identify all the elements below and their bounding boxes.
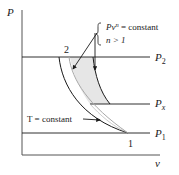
pv-diagram: P v P2 Px P1 2 1 Pvn = constant n > 1 T … <box>0 0 179 175</box>
p2-label: P2 <box>154 51 166 66</box>
isothermal-label: T = constant <box>27 114 72 124</box>
polytropic-equation-label: Pvn = constant <box>105 21 159 32</box>
state-1-label: 1 <box>128 138 133 149</box>
polytropic-condition-label: n > 1 <box>106 35 126 45</box>
x-axis-label: v <box>155 157 160 169</box>
p1-label: P1 <box>154 127 166 142</box>
px-label: Px <box>154 97 166 112</box>
annotation-brace <box>96 23 101 45</box>
state-2-label: 2 <box>64 44 69 55</box>
y-axis-label: P <box>6 6 14 18</box>
